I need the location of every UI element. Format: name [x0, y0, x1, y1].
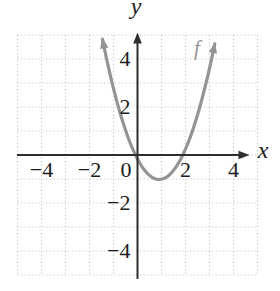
- y-tick-label-2: 2: [120, 94, 131, 119]
- y-tick-label--4: −4: [107, 238, 130, 263]
- x-tick-label-0: 0: [121, 157, 132, 182]
- y-tick-label-4: 4: [120, 46, 131, 71]
- graph-background: [0, 0, 280, 291]
- x-tick-label--2: −2: [78, 157, 101, 182]
- y-axis-label: y: [129, 0, 142, 19]
- coordinate-plane-graph: −4−202442−2−4xyf: [0, 0, 280, 291]
- y-tick-label--2: −2: [107, 190, 130, 215]
- x-axis-label: x: [257, 137, 269, 163]
- x-tick-label-2: 2: [180, 157, 191, 182]
- x-tick-label-4: 4: [228, 157, 239, 182]
- graph-figure: −4−202442−2−4xyf: [0, 0, 280, 291]
- x-tick-label--4: −4: [30, 157, 53, 182]
